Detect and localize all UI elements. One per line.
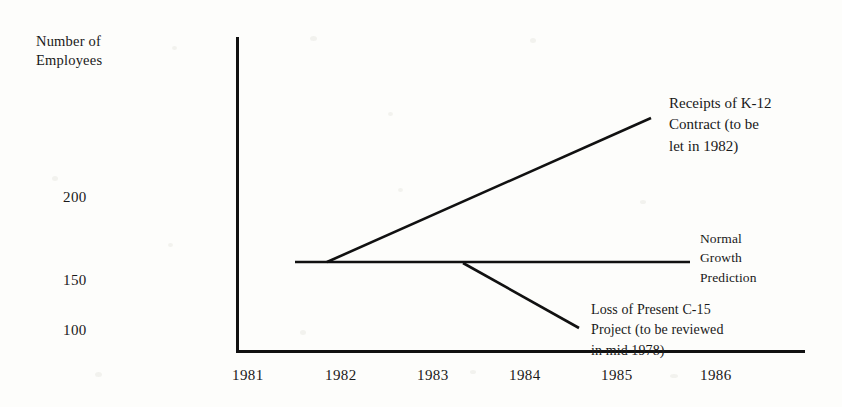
y-axis-title-line-1: Number of <box>36 33 101 49</box>
x-tick-label-1986: 1986 <box>700 366 732 386</box>
y-axis-title: Number ofEmployees <box>36 32 102 70</box>
y-tick-label-200: 200 <box>63 188 87 208</box>
annotation-receipts-line-1: Receipts of K-12 <box>669 95 771 111</box>
annotation-receipts-k12: Receipts of K-12Contract (to belet in 19… <box>669 93 771 157</box>
annotation-receipts-line-3: let in 1982) <box>669 138 738 154</box>
chart-figure: Number ofEmployees 200 150 100 1981 1982… <box>0 0 842 407</box>
series-line-loss-c15 <box>463 263 579 328</box>
x-tick-label-1982: 1982 <box>325 366 357 386</box>
annotation-normal-line-3: Prediction <box>700 270 757 285</box>
y-tick-label-150: 150 <box>63 271 87 291</box>
annotation-loss-line-3: in mid 1978) <box>591 343 665 358</box>
x-tick-label-1984: 1984 <box>509 366 541 386</box>
annotation-normal-growth: NormalGrowthPrediction <box>700 229 757 287</box>
annotation-normal-line-2: Growth <box>700 250 742 265</box>
series-line-receipts-k12 <box>327 118 651 262</box>
y-axis-title-line-2: Employees <box>36 52 102 68</box>
annotation-loss-c15: Loss of Present C-15Project (to be revie… <box>591 300 724 361</box>
annotation-receipts-line-2: Contract (to be <box>669 116 759 132</box>
x-tick-label-1985: 1985 <box>601 366 633 386</box>
annotation-loss-line-1: Loss of Present C-15 <box>591 302 711 317</box>
y-tick-label-100: 100 <box>63 321 87 341</box>
annotation-normal-line-1: Normal <box>700 231 742 246</box>
x-tick-label-1983: 1983 <box>417 366 449 386</box>
annotation-loss-line-2: Project (to be reviewed <box>591 322 724 337</box>
x-tick-label-1981: 1981 <box>232 366 264 386</box>
